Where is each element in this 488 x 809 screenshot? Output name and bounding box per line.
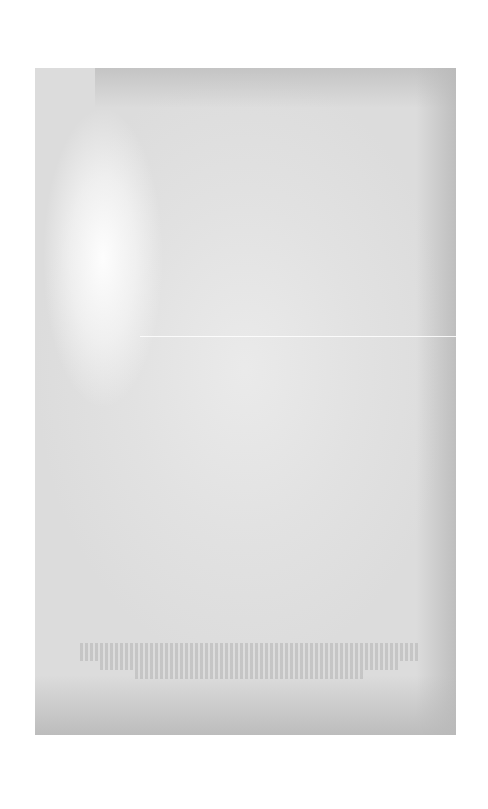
bleed-through-line [100, 661, 400, 670]
page-edge-bottom-shadow [35, 675, 456, 735]
bright-patch [43, 108, 163, 408]
page-edge-right-shadow [416, 68, 456, 735]
scanned-page [35, 68, 456, 735]
bleed-through-line [135, 670, 365, 679]
bleed-through-line [80, 652, 420, 661]
bleed-through-text-block [80, 643, 420, 679]
page-edge-top-shadow [95, 68, 456, 108]
bleed-through-line [80, 643, 420, 652]
scan-crease-line [140, 336, 456, 337]
